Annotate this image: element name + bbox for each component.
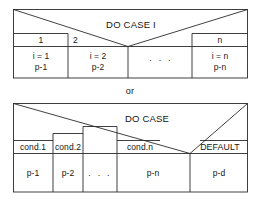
- diagram-two-condition-default: DEFAULT: [200, 143, 240, 152]
- diagram-two-condition-1: cond.1: [20, 143, 46, 152]
- diagram-two-cell-n: p-n: [147, 169, 160, 178]
- diagram-one-cell-1: i = 1 p-1: [33, 51, 49, 73]
- diagram-one-cell-1-condition: i = 1: [33, 51, 49, 62]
- diagram-one-cell-n-condition: i = n: [212, 51, 228, 62]
- diagram-two-title: DO CASE: [125, 114, 169, 124]
- diagram-one-cell-n: i = n p-n: [212, 51, 228, 73]
- diagram-two-cell-2: p-2: [62, 169, 75, 178]
- diagram-one-cell-1-process: p-1: [33, 62, 49, 73]
- diagram-separator-or: or: [126, 87, 134, 96]
- diagram-two-cell-ellipsis: . . .: [88, 169, 112, 178]
- diagram-one-title: DO CASE I: [106, 20, 156, 30]
- diagram-one-cell-ellipsis: . . .: [149, 54, 173, 63]
- diagram-one-cell-2-process: p-2: [90, 62, 106, 73]
- diagram-one-case-label-1: 1: [39, 36, 44, 45]
- diagram-two-condition-2: cond.2: [55, 143, 81, 152]
- diagram-one-cell-2-condition: i = 2: [90, 51, 106, 62]
- diagram-one-case-label-n: n: [218, 36, 223, 45]
- diagram-two-condition-n: cond.n: [127, 143, 153, 152]
- diagram-two-cell-default: p-d: [213, 169, 226, 178]
- diagram-two-cell-1: p-1: [27, 169, 40, 178]
- diagram-one-cell-2: i = 2 p-2: [90, 51, 106, 73]
- diagram-one-cell-n-process: p-n: [212, 62, 228, 73]
- diagram-one-case-label-2: 2: [73, 36, 78, 45]
- figure-canvas: DO CASE I 1 2 n i = 1 p-1 i = 2 p-2 . . …: [0, 0, 261, 203]
